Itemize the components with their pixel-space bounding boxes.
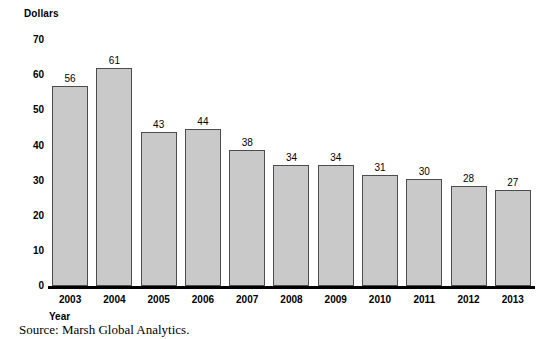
bar-rect[interactable]	[185, 129, 221, 286]
bar-slot[interactable]: 38	[225, 36, 269, 286]
bar-slot[interactable]: 30	[402, 36, 446, 286]
bar-slot[interactable]: 44	[181, 36, 225, 286]
bar-value-label: 27	[491, 177, 535, 188]
bar-slot[interactable]: 34	[269, 36, 313, 286]
bar-slot[interactable]: 34	[314, 36, 358, 286]
bar-slot[interactable]: 61	[92, 36, 136, 286]
bar-value-label: 34	[314, 152, 358, 163]
y-tick-label-0: 0	[18, 281, 44, 291]
bar-value-label: 44	[181, 116, 225, 127]
bar-value-label: 61	[92, 55, 136, 66]
x-tick-label: 2003	[48, 294, 92, 305]
bar-rect[interactable]	[96, 68, 132, 286]
bar-rect[interactable]	[451, 186, 487, 286]
bar-rect[interactable]	[406, 179, 442, 286]
x-tick-label: 2009	[314, 294, 358, 305]
y-tick-label-40: 40	[18, 141, 44, 151]
y-tick-label-50: 50	[18, 105, 44, 115]
y-tick-label-30: 30	[18, 176, 44, 186]
bar-rect[interactable]	[229, 150, 265, 286]
bar-value-label: 31	[358, 162, 402, 173]
bar-slot[interactable]: 31	[358, 36, 402, 286]
x-tick-label: 2011	[402, 294, 446, 305]
x-tick-label: 2007	[225, 294, 269, 305]
x-axis-tick-labels: 2003200420052006200720082009201020112012…	[48, 294, 535, 305]
y-tick-label-70: 70	[18, 35, 44, 45]
x-tick-label: 2006	[181, 294, 225, 305]
y-axis-title: Dollars	[24, 8, 59, 19]
bar-rect[interactable]	[495, 190, 531, 286]
bar-value-label: 43	[137, 119, 181, 130]
x-tick-label: 2013	[491, 294, 535, 305]
bar-rect[interactable]	[362, 175, 398, 286]
bar-value-label: 56	[48, 73, 92, 84]
x-tick-label: 2005	[137, 294, 181, 305]
bar-rect[interactable]	[318, 165, 354, 286]
bar-rect[interactable]	[52, 86, 88, 286]
y-tick-label-20: 20	[18, 211, 44, 221]
bar-chart-figure: Dollars 70 60 50 40 30 20 10 0 566143443…	[0, 0, 557, 339]
bar-series: 5661434438343431302827	[48, 36, 535, 286]
x-tick-label: 2010	[358, 294, 402, 305]
x-tick-label: 2012	[446, 294, 490, 305]
bar-slot[interactable]: 56	[48, 36, 92, 286]
bar-slot[interactable]: 28	[446, 36, 490, 286]
bar-value-label: 38	[225, 137, 269, 148]
bar-slot[interactable]: 43	[137, 36, 181, 286]
bar-rect[interactable]	[273, 165, 309, 286]
x-axis-line	[48, 286, 535, 289]
x-tick-label: 2008	[269, 294, 313, 305]
y-tick-label-60: 60	[18, 70, 44, 80]
bar-value-label: 34	[269, 152, 313, 163]
bar-rect[interactable]	[141, 132, 177, 286]
x-axis-title: Year	[49, 311, 70, 322]
x-tick-label: 2004	[92, 294, 136, 305]
bar-value-label: 28	[446, 173, 490, 184]
y-tick-label-10: 10	[18, 246, 44, 256]
bar-slot[interactable]: 27	[491, 36, 535, 286]
bar-value-label: 30	[402, 166, 446, 177]
source-note: Source: Marsh Global Analytics.	[19, 322, 189, 338]
